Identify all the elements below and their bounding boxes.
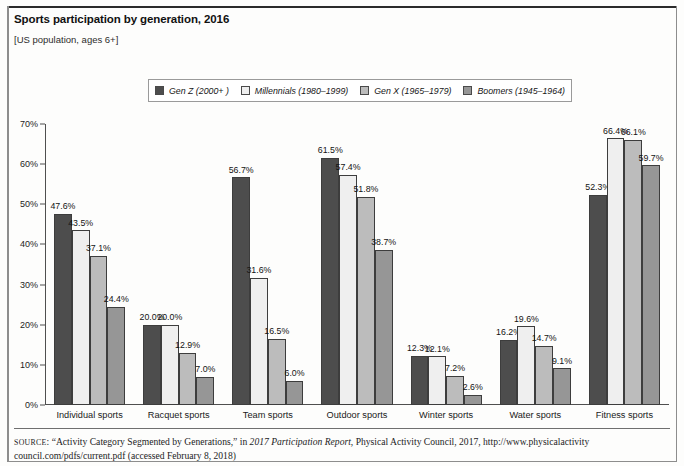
bar-slot: 9.1% [553, 124, 571, 405]
frame-right-border [676, 6, 677, 462]
bar-value-label: 59.7% [639, 154, 664, 163]
bar[interactable] [464, 395, 482, 405]
legend-item[interactable]: Gen X (1965–1979) [358, 86, 453, 96]
source-report-title: 2017 Participation Report [250, 436, 351, 447]
bar[interactable] [411, 356, 429, 405]
bar-slot: 43.5% [72, 124, 90, 405]
frame-top-border [7, 6, 677, 8]
bar-slot: 66.1% [624, 124, 642, 405]
bar[interactable] [232, 177, 250, 405]
frame-left-border [7, 6, 9, 462]
bar[interactable] [446, 376, 464, 405]
bar[interactable] [607, 138, 625, 405]
bar-slot: 57.4% [339, 124, 357, 405]
bar-value-label: 6.0% [284, 369, 304, 378]
bar-group: 12.3%12.1%7.2%2.6%Winter sports [402, 124, 491, 405]
bar-slot: 31.6% [250, 124, 268, 405]
bar-group-bars: 20.0%20.0%12.9%7.0% [134, 124, 223, 405]
bar-slot: 59.7% [642, 124, 660, 405]
bar-group-bars: 61.5%57.4%51.8%38.7% [312, 124, 401, 405]
bar-value-label: 7.2% [445, 364, 465, 373]
bar-groups: 47.6%43.5%37.1%24.4%Individual sports20.… [45, 124, 669, 405]
bar-slot: 51.8% [357, 124, 375, 405]
bar-value-label: 24.4% [104, 295, 129, 304]
bar[interactable] [250, 278, 268, 405]
x-axis-category-label: Water sports [491, 410, 580, 420]
bar[interactable] [268, 339, 286, 405]
bar-value-label: 7.0% [195, 365, 215, 374]
bar-slot: 12.9% [179, 124, 197, 405]
source-divider [14, 428, 670, 429]
bar-slot: 20.0% [161, 124, 179, 405]
legend-item-label: Gen X (1965–1979) [374, 86, 451, 96]
bar[interactable] [54, 214, 72, 405]
bar[interactable] [90, 256, 108, 405]
bar-slot: 2.6% [464, 124, 482, 405]
legend-swatch-icon [360, 86, 369, 95]
bar-slot: 24.4% [107, 124, 125, 405]
legend-item-label: Boomers (1945–1964) [477, 86, 565, 96]
source-note: SOURCE: “Activity Category Segmented by … [14, 435, 670, 462]
x-axis-category-label: Individual sports [45, 410, 134, 420]
bar[interactable] [553, 368, 571, 405]
bar-group: 52.3%66.4%66.1%59.7%Fitness sports [580, 124, 669, 405]
bar[interactable] [375, 250, 393, 405]
bar[interactable] [72, 230, 90, 405]
bar-value-label: 38.7% [371, 238, 396, 247]
bar[interactable] [107, 307, 125, 405]
bar-value-label: 9.1% [552, 357, 572, 366]
chart-legend: Gen Z (2000+ )Millennials (1980–1999)Gen… [148, 79, 572, 102]
bar-slot: 12.3% [411, 124, 429, 405]
bar-slot: 52.3% [589, 124, 607, 405]
x-axis-category-label: Racquet sports [134, 410, 223, 420]
bar-group: 56.7%31.6%16.5%6.0%Team sports [223, 124, 312, 405]
bar-group: 47.6%43.5%37.1%24.4%Individual sports [45, 124, 134, 405]
bar-slot: 7.2% [446, 124, 464, 405]
bar[interactable] [161, 325, 179, 405]
bar-slot: 47.6% [54, 124, 72, 405]
bar[interactable] [357, 197, 375, 405]
bar-slot: 19.6% [517, 124, 535, 405]
x-axis-category-label: Team sports [223, 410, 312, 420]
bar[interactable] [642, 165, 660, 405]
legend-item[interactable]: Gen Z (2000+ ) [153, 86, 231, 96]
bar-slot: 7.0% [196, 124, 214, 405]
bar[interactable] [143, 325, 161, 405]
legend-swatch-icon [155, 86, 164, 95]
legend-item[interactable]: Boomers (1945–1964) [461, 86, 567, 96]
bar-slot: 37.1% [90, 124, 108, 405]
bar[interactable] [428, 356, 446, 405]
bar-group-bars: 52.3%66.4%66.1%59.7% [580, 124, 669, 405]
bar-value-label: 2.6% [463, 383, 483, 392]
bar-group-bars: 12.3%12.1%7.2%2.6% [402, 124, 491, 405]
bar-group: 20.0%20.0%12.9%7.0%Racquet sports [134, 124, 223, 405]
legend-item-label: Millennials (1980–1999) [255, 86, 348, 96]
bar[interactable] [179, 353, 197, 405]
bar[interactable] [500, 340, 518, 405]
bar[interactable] [196, 377, 214, 405]
bar[interactable] [286, 381, 304, 405]
legend-swatch-icon [463, 86, 472, 95]
chart-figure: Sports participation by generation, 2016… [0, 0, 684, 466]
bar[interactable] [321, 158, 339, 405]
bar-slot: 6.0% [286, 124, 304, 405]
source-prefix: SOURCE [14, 438, 47, 447]
legend-item[interactable]: Millennials (1980–1999) [239, 86, 350, 96]
chart-title: Sports participation by generation, 2016 [14, 13, 229, 25]
bar-group: 61.5%57.4%51.8%38.7%Outdoor sports [312, 124, 401, 405]
bar[interactable] [535, 346, 553, 405]
x-axis-category-label: Fitness sports [580, 410, 669, 420]
bar-group-bars: 47.6%43.5%37.1%24.4% [45, 124, 134, 405]
bar-slot: 16.5% [268, 124, 286, 405]
legend-item-label: Gen Z (2000+ ) [169, 86, 229, 96]
bar-slot: 20.0% [143, 124, 161, 405]
bar-slot: 16.2% [500, 124, 518, 405]
x-axis-category-label: Winter sports [402, 410, 491, 420]
bar[interactable] [339, 175, 357, 405]
bar-slot: 38.7% [375, 124, 393, 405]
bar-slot: 66.4% [607, 124, 625, 405]
bar[interactable] [589, 195, 607, 405]
bar[interactable] [624, 140, 642, 405]
bar-slot: 14.7% [535, 124, 553, 405]
source-text-lead: : “Activity Category Segmented by Genera… [47, 436, 250, 447]
